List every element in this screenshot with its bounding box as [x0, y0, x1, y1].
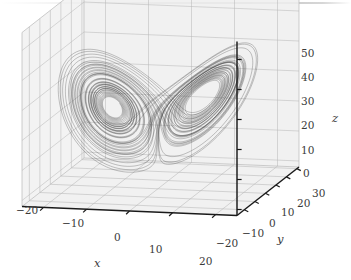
- x-tick-label: −10: [62, 218, 84, 229]
- x-tick-label: −20: [16, 205, 38, 216]
- y-tick-label: 20: [297, 198, 310, 209]
- y-tick-label: 10: [281, 207, 294, 218]
- z-tick-label: 50: [301, 48, 314, 59]
- z-tick-label: 0: [303, 168, 310, 179]
- lorenz-attractor-plot: [0, 0, 351, 280]
- y-tick-label: −10: [242, 228, 264, 239]
- x-axis-title: x: [94, 258, 101, 270]
- y-axis-title: y: [277, 234, 284, 246]
- y-tick-label: 0: [269, 218, 276, 229]
- x-tick-label: 20: [199, 256, 212, 267]
- x-tick-label: 0: [114, 232, 121, 243]
- figure-panel: −20−1001020 −20−100102030 01020304050 x …: [0, 0, 351, 280]
- y-tick-label: 30: [312, 188, 325, 199]
- z-tick-label: 40: [301, 72, 314, 83]
- y-tick-label: −20: [216, 238, 238, 249]
- z-tick-label: 10: [301, 145, 314, 156]
- z-tick-label: 30: [301, 96, 314, 107]
- z-axis-title: z: [332, 113, 338, 125]
- z-tick-label: 20: [301, 120, 314, 131]
- x-tick-label: 10: [149, 244, 162, 255]
